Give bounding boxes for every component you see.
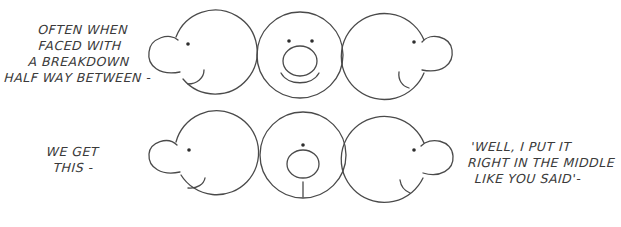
eye-icon: [412, 40, 416, 44]
mouth-curve: [399, 72, 409, 88]
head-profile-right: [341, 116, 453, 202]
eye-icon: [310, 39, 314, 43]
top-row-figures: [149, 10, 452, 99]
eye-icon: [187, 148, 191, 152]
nose-bulb: [287, 150, 319, 178]
nose-bulb: [149, 36, 180, 72]
nose-bulb: [283, 46, 317, 76]
head-profile-right: [341, 13, 452, 99]
nose-bulb: [422, 36, 452, 70]
head-outline: [257, 12, 343, 98]
mouth-curve: [188, 178, 205, 188]
head-front-wrong: [260, 112, 346, 198]
head-turn-sketch: [0, 0, 621, 227]
mouth-curve: [400, 180, 410, 193]
head-outline: [176, 111, 259, 195]
head-outline: [176, 10, 257, 94]
mouth-curve: [188, 70, 204, 84]
eye-icon: [287, 39, 291, 43]
mouth-smile: [281, 73, 319, 83]
eye-icon: [186, 42, 190, 46]
eye-icon: [412, 148, 416, 152]
eye-icon: [301, 143, 305, 147]
head-profile-left: [149, 10, 257, 94]
head-profile-left: [149, 111, 259, 195]
bottom-row-figures: [149, 111, 453, 203]
head-outline: [341, 116, 424, 202]
nose-bulb: [149, 141, 180, 173]
nose-bulb: [421, 141, 453, 175]
head-outline: [341, 13, 424, 99]
head-front: [257, 12, 343, 98]
